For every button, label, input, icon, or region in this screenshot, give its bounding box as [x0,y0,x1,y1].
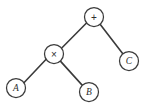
tree-canvas: + × C A B [0,0,151,111]
node-root-plus[interactable]: + [85,8,104,27]
edge-root-to-leaf-c [100,24,123,53]
node-leaf-a[interactable]: A [7,79,26,98]
node-label-root: + [91,12,97,23]
node-label-leaf-a: A [12,83,19,93]
node-label-leaf-c: C [126,56,133,66]
edge-root-to-multiply [62,23,87,48]
node-label-leaf-b: B [86,87,92,97]
edges-group [24,23,123,86]
expression-tree-diagram: + × C A B [0,0,151,111]
node-label-multiply: × [51,49,57,60]
node-leaf-c[interactable]: C [120,52,139,71]
node-leaf-b[interactable]: B [80,83,99,102]
node-multiply[interactable]: × [45,45,64,64]
edge-multiply-to-leaf-a [24,59,47,83]
edge-multiply-to-leaf-b [60,61,82,86]
